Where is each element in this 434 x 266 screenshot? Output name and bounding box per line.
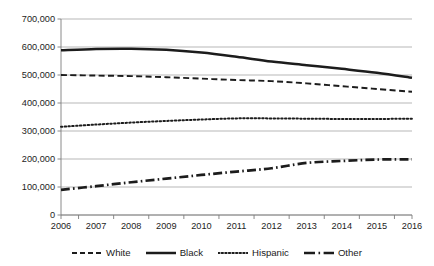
y-tick-label: 700,000 (22, 14, 55, 24)
x-tick-label: 2015 (367, 221, 387, 231)
y-tick-label: 0 (50, 210, 55, 220)
x-axis-tickmarks (61, 215, 412, 219)
series-line-white (61, 75, 412, 92)
x-tick-label: 2010 (191, 221, 211, 231)
data-series (61, 49, 412, 190)
legend-label: Hispanic (252, 248, 289, 258)
y-tick-label: 600,000 (22, 42, 55, 52)
legend-item-hispanic[interactable]: Hispanic (218, 248, 289, 258)
dash-dot-line-swatch (304, 248, 334, 258)
dashed-line-swatch (72, 248, 102, 258)
x-tick-label: 2012 (261, 221, 281, 231)
plot-area: 0100,000200,000300,000400,000500,000600,… (0, 0, 434, 240)
chart-legend: WhiteBlackHispanicOther (0, 240, 434, 266)
x-tick-label: 2011 (227, 221, 247, 231)
chart-canvas: 0100,000200,000300,000400,000500,000600,… (0, 0, 434, 240)
x-tick-label: 2013 (296, 221, 316, 231)
legend-label: Black (180, 248, 203, 258)
solid-line-swatch (146, 248, 176, 258)
y-tick-label: 100,000 (22, 182, 55, 192)
series-line-black (61, 49, 412, 78)
x-tick-label: 2014 (332, 221, 352, 231)
y-tick-label: 400,000 (22, 98, 55, 108)
y-tick-label: 300,000 (22, 126, 55, 136)
legend-item-other[interactable]: Other (304, 248, 362, 258)
legend-item-black[interactable]: Black (146, 248, 203, 258)
series-line-other (61, 159, 412, 190)
y-axis-tickmarks (58, 19, 62, 215)
x-tick-label: 2008 (121, 221, 141, 231)
y-axis-tick-labels: 0100,000200,000300,000400,000500,000600,… (22, 14, 55, 220)
x-tick-label: 2009 (156, 221, 176, 231)
x-tick-label: 2016 (402, 221, 422, 231)
dotted-line-swatch (218, 248, 248, 258)
x-axis-tick-labels: 2006200720082009201020112012201320142015… (51, 221, 422, 231)
y-tick-label: 200,000 (22, 154, 55, 164)
x-tick-label: 2007 (86, 221, 106, 231)
y-tick-label: 500,000 (22, 70, 55, 80)
series-line-hispanic (61, 118, 412, 126)
legend-item-white[interactable]: White (72, 248, 131, 258)
x-tick-label: 2006 (51, 221, 71, 231)
legend-label: White (106, 248, 131, 258)
legend-label: Other (338, 248, 362, 258)
line-chart: 0100,000200,000300,000400,000500,000600,… (0, 0, 434, 266)
